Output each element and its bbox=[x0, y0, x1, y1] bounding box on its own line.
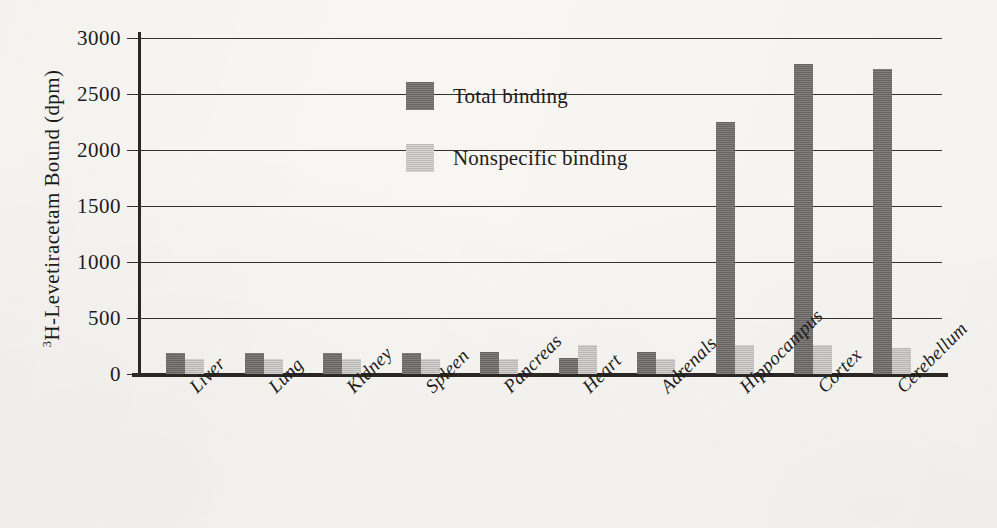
y-axis-title-superscript: 3 bbox=[39, 340, 54, 347]
bar-group bbox=[716, 38, 754, 374]
bar-group bbox=[873, 38, 911, 374]
bar-group bbox=[637, 38, 675, 374]
legend-swatch-nonspecific-binding bbox=[406, 144, 434, 172]
bar-total bbox=[559, 358, 578, 374]
y-axis-tick-label: 1000 bbox=[77, 250, 121, 275]
bar-total bbox=[873, 69, 892, 374]
y-axis-tick-label: 3000 bbox=[77, 26, 121, 51]
legend-item-nonspecific-binding: Nonspecific binding bbox=[406, 144, 628, 172]
legend-label-total-binding: Total binding bbox=[453, 84, 568, 109]
bar-total bbox=[480, 352, 499, 374]
legend-item-total-binding: Total binding bbox=[406, 82, 628, 110]
x-axis-tick-labels: LiverLungKidneySpleenPancreasHeartAdrena… bbox=[138, 382, 958, 522]
y-axis-tick-mark bbox=[127, 374, 139, 375]
legend-label-nonspecific-binding: Nonspecific binding bbox=[453, 146, 628, 171]
bar-total bbox=[402, 353, 421, 374]
bar-total bbox=[716, 122, 735, 374]
y-axis-title-text: H-Levetiracetam Bound (dpm) bbox=[40, 70, 64, 341]
y-axis-tick-label: 1500 bbox=[77, 194, 121, 219]
bar-total bbox=[245, 353, 264, 374]
y-axis-title: 3H-Levetiracetam Bound (dpm) bbox=[40, 9, 65, 409]
bar-total bbox=[323, 353, 342, 374]
bar-total bbox=[637, 352, 656, 374]
legend-swatch-total-binding bbox=[406, 82, 434, 110]
chart-legend: Total binding Nonspecific binding bbox=[406, 82, 628, 206]
bar-group bbox=[166, 38, 204, 374]
bar-chart-figure: 3H-Levetiracetam Bound (dpm) 30002500200… bbox=[0, 0, 997, 528]
bar-total bbox=[166, 353, 185, 374]
bar-group bbox=[245, 38, 283, 374]
y-axis-tick-label: 2000 bbox=[77, 138, 121, 163]
y-axis-tick-label: 2500 bbox=[77, 82, 121, 107]
y-axis-tick-label: 500 bbox=[88, 306, 121, 331]
y-axis-tick-label: 0 bbox=[110, 362, 121, 387]
bar-group bbox=[323, 38, 361, 374]
